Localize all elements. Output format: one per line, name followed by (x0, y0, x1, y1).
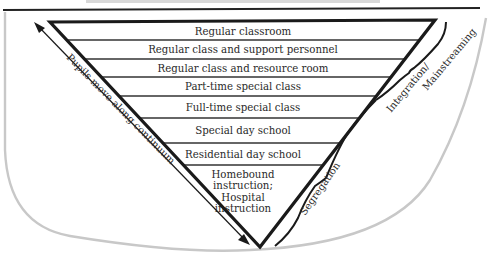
tier-label: Regular class and resource room (158, 63, 329, 74)
tier-label: Special day school (195, 125, 291, 136)
tier-label-line: Regular class and support personnel (148, 44, 338, 55)
tier-label: Residential day school (185, 149, 301, 160)
tier-label: Full-time special class (186, 102, 301, 113)
tier-label-line: Residential day school (185, 149, 301, 160)
tier-label-line: Full-time special class (186, 102, 301, 113)
tier-label: Regular class and support personnel (148, 44, 338, 55)
tier-label-line: Part-time special class (185, 81, 301, 92)
tier-label-line: Regular classroom (195, 26, 292, 37)
top-rule (3, 8, 480, 10)
tier-label: Part-time special class (185, 81, 301, 92)
continuum-diagram: Regular classroomRegular class and suppo… (0, 0, 492, 257)
tier-label-line: instruction; (213, 180, 273, 191)
tier-label-line: Regular class and resource room (158, 63, 329, 74)
tier-label-line: Homebound (211, 169, 274, 180)
tier-label-line: Special day school (195, 125, 291, 136)
caption-bar (86, 0, 380, 3)
tier-label-line: Hospital (221, 192, 264, 203)
tier-group: Regular classroomRegular class and suppo… (67, 26, 420, 215)
tier-label: Regular classroom (195, 26, 292, 37)
mainstreaming-label: Mainstreaming (420, 26, 478, 93)
